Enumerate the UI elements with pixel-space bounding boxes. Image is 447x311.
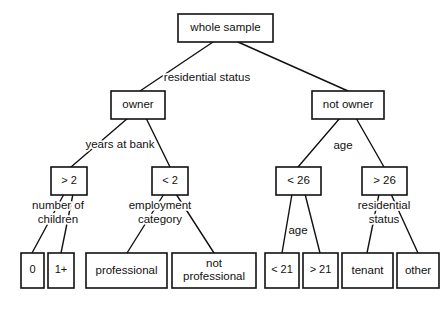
node-label: < 2: [162, 174, 178, 186]
split-label-text: residential status: [164, 71, 251, 83]
split-label: residentialresidentialstatusstatus: [358, 199, 410, 225]
split-label: years at bankyears at bank: [85, 138, 154, 150]
tree-node[interactable]: > 21: [303, 253, 338, 288]
tree-node[interactable]: 0: [21, 253, 44, 288]
node-label: < 21: [271, 263, 293, 275]
tree-node[interactable]: tenant: [342, 253, 393, 288]
node-label: > 26: [373, 174, 396, 186]
tree-node[interactable]: owner: [111, 91, 165, 119]
tree-edge: [140, 42, 213, 91]
tree-edge: [356, 118, 384, 167]
split-label-text: children: [38, 213, 78, 225]
decision-tree-canvas: residential statusresidential statusyear…: [0, 0, 447, 311]
split-label: residential statusresidential status: [164, 71, 251, 83]
tree-node[interactable]: < 21: [265, 253, 299, 288]
tree-node[interactable]: not owner: [312, 91, 384, 119]
split-label-text: age: [333, 139, 352, 151]
split-label-text: age: [288, 224, 307, 236]
nodes-layer: whole sampleownernot owner> 2< 2< 26> 26…: [21, 14, 439, 288]
tree-edge: [238, 42, 348, 91]
node-label: other: [405, 264, 431, 276]
split-label: ageage: [288, 224, 307, 236]
node-label: professional: [95, 264, 157, 276]
node-label: not owner: [323, 98, 374, 110]
tree-node[interactable]: > 2: [51, 167, 87, 195]
split-label-text: category: [138, 213, 182, 225]
node-label: 0: [29, 263, 35, 275]
node-label: < 26: [287, 174, 310, 186]
split-label-text: number of: [32, 199, 85, 211]
node-label: whole sample: [189, 21, 260, 33]
node-label: not: [206, 257, 223, 269]
split-label: number ofnumber ofchildrenchildren: [32, 199, 85, 225]
split-label-text: years at bank: [85, 138, 154, 150]
split-label-text: residential: [358, 199, 410, 211]
node-label: > 2: [61, 174, 77, 186]
tree-node[interactable]: whole sample: [178, 14, 273, 42]
node-label: professional: [183, 270, 245, 282]
tree-node[interactable]: other: [397, 253, 439, 288]
node-label: 1+: [55, 263, 68, 275]
node-label: tenant: [352, 264, 385, 276]
tree-node[interactable]: < 26: [276, 167, 321, 195]
split-label: ageage: [333, 139, 352, 151]
tree-node[interactable]: notprofessional: [172, 253, 256, 288]
decision-tree-diagram: residential statusresidential statusyear…: [0, 0, 447, 311]
tree-node[interactable]: professional: [86, 253, 167, 288]
node-label: owner: [122, 98, 153, 110]
tree-node[interactable]: > 26: [362, 167, 407, 195]
node-label: > 21: [310, 263, 332, 275]
tree-node[interactable]: 1+: [48, 253, 74, 288]
split-label-text: status: [369, 213, 400, 225]
split-label: employmentemploymentcategorycategory: [129, 199, 192, 225]
split-label-text: employment: [129, 199, 192, 211]
tree-node[interactable]: < 2: [152, 167, 188, 195]
